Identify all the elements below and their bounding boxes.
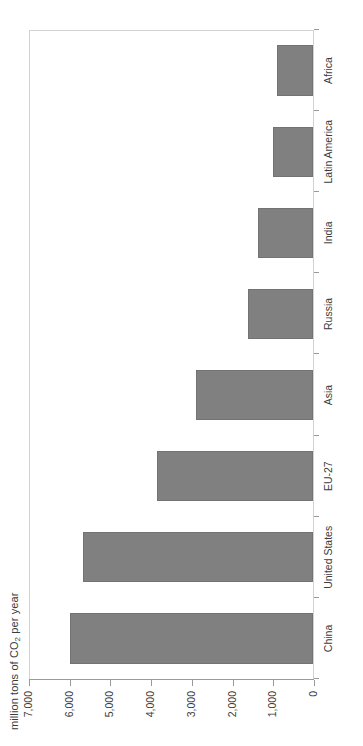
category-label: Latin America <box>322 120 334 184</box>
value-axis-tick-label: 6,000 <box>63 691 75 717</box>
axis-title-pre: million tons of CO <box>8 641 20 730</box>
category-axis-tick <box>314 354 319 355</box>
category-label: EU-27 <box>322 461 334 491</box>
bar[interactable] <box>248 289 313 339</box>
axis-title-subscript: 2 <box>13 637 22 642</box>
category-axis-tick <box>314 110 319 111</box>
bar-group <box>30 208 313 258</box>
bar-group <box>30 127 313 177</box>
value-axis-tick-label: 3,000 <box>185 691 197 717</box>
value-axis-tick: 0 <box>314 680 315 686</box>
chart-rotation-wrapper: million tons of CO2 per year 7,0006,0005… <box>0 0 363 746</box>
category-label: Russia <box>322 298 334 330</box>
value-axis-tick-label: 2,000 <box>226 691 238 717</box>
bar[interactable] <box>70 613 313 663</box>
category-axis-tick <box>314 29 319 30</box>
category-axis-tick <box>314 435 319 436</box>
value-axis-tick: 5,000 <box>110 680 111 686</box>
value-axis-tick: 2,000 <box>233 680 234 686</box>
value-axis-tick: 3,000 <box>192 680 193 686</box>
value-axis-tick: 4,000 <box>151 680 152 686</box>
bars-layer <box>30 30 313 679</box>
value-axis-tick: 7,000 <box>29 680 30 686</box>
bar[interactable] <box>273 127 313 177</box>
category-label: United States <box>322 526 334 589</box>
bar[interactable] <box>277 45 313 95</box>
bar-group <box>30 613 313 663</box>
value-axis-tick-label: 5,000 <box>103 691 115 717</box>
bar-group <box>30 370 313 420</box>
bar-group <box>30 532 313 582</box>
category-label: India <box>322 221 334 244</box>
value-axis-tick: 6,000 <box>70 680 71 686</box>
category-axis-tick <box>314 678 319 679</box>
bar[interactable] <box>196 370 313 420</box>
category-axis-tick <box>314 516 319 517</box>
value-axis-tick-label: 7,000 <box>22 691 34 717</box>
value-axis-tick-label: 0 <box>307 691 319 697</box>
value-axis-tick-label: 4,000 <box>144 691 156 717</box>
category-label: Asia <box>322 385 334 405</box>
bar[interactable] <box>83 532 313 582</box>
bar[interactable] <box>157 451 313 501</box>
category-axis-tick <box>314 191 319 192</box>
category-axis-tick <box>314 597 319 598</box>
value-axis-title: million tons of CO2 per year <box>8 593 20 730</box>
value-axis-tick: 1,000 <box>273 680 274 686</box>
bar-chart-figure: million tons of CO2 per year 7,0006,0005… <box>0 0 363 746</box>
value-axis-tick-label: 1,000 <box>266 691 278 717</box>
bar-group <box>30 451 313 501</box>
category-label: Africa <box>322 57 334 84</box>
category-label: China <box>322 625 334 652</box>
category-axis-tick <box>314 272 319 273</box>
value-axis-line <box>29 679 314 680</box>
axis-title-post: per year <box>8 593 20 637</box>
bar[interactable] <box>258 208 313 258</box>
bar-group <box>30 45 313 95</box>
bar-group <box>30 289 313 339</box>
